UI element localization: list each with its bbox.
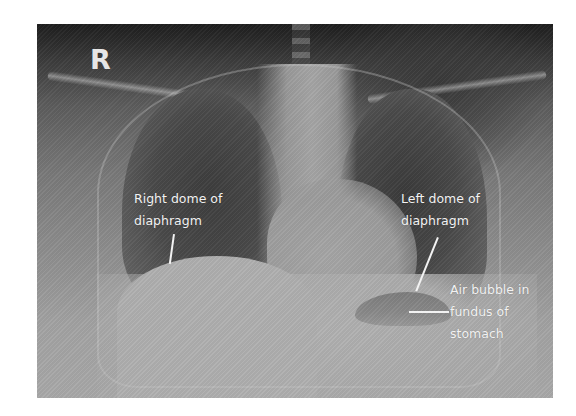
label-line: diaphragm xyxy=(401,210,480,232)
label-line: Air bubble in xyxy=(450,279,529,301)
leader-line-air-bubble xyxy=(409,311,449,313)
label-line: stomach xyxy=(450,323,529,345)
label-line: diaphragm xyxy=(134,210,222,232)
chest-xray-image: R Right dome of diaphragm Left dome of d… xyxy=(37,24,553,398)
label-line: Right dome of xyxy=(134,188,222,210)
label-left-dome: Left dome of diaphragm xyxy=(401,188,480,232)
label-line: fundus of xyxy=(450,301,529,323)
label-right-dome: Right dome of diaphragm xyxy=(134,188,222,232)
label-line: Left dome of xyxy=(401,188,480,210)
side-marker: R xyxy=(90,44,111,75)
label-air-bubble: Air bubble in fundus of stomach xyxy=(450,279,529,345)
